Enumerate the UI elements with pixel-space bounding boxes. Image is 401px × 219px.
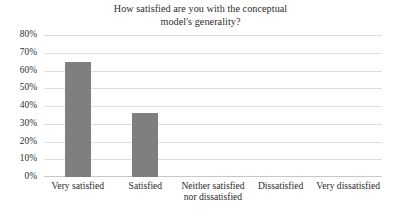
chart-title: How satisfied are you with the conceptua… — [60, 3, 341, 28]
bar-slot — [112, 35, 180, 177]
chart-title-line-1: How satisfied are you with the conceptua… — [114, 3, 288, 14]
y-axis: 80% 70% 60% 50% 40% 30% 20% 10% 0% — [0, 35, 40, 177]
x-axis-tick-label-satisfied: Satisfied — [112, 180, 180, 191]
x-tick-line-1: Neither satisfied — [181, 180, 244, 191]
x-tick-line-1: Satisfied — [129, 180, 163, 191]
y-axis-tick-label: 0% — [25, 172, 38, 181]
x-axis-tick-label-very-dissatisfied: Very dissatisfied — [314, 180, 382, 191]
plot-area — [44, 35, 382, 177]
bar-slot — [179, 35, 247, 177]
x-axis-tick-label-dissatisfied: Dissatisfied — [247, 180, 315, 191]
bar-very-satisfied[interactable] — [65, 62, 91, 177]
x-axis-tick-label-neither: Neither satisfied nor dissatisfied — [179, 180, 247, 203]
x-tick-line-1: Dissatisfied — [258, 180, 303, 191]
chart-title-line-2: model's generality? — [160, 16, 240, 27]
y-axis-tick-label: 30% — [20, 119, 37, 128]
bar-slot — [44, 35, 112, 177]
x-tick-line-1: Very dissatisfied — [316, 180, 380, 191]
y-axis-tick-label: 50% — [20, 84, 37, 93]
y-axis-tick-label: 80% — [20, 30, 37, 39]
y-axis-tick-label: 40% — [20, 101, 37, 110]
y-axis-tick-label: 10% — [20, 155, 37, 164]
bars-layer — [44, 35, 382, 177]
chart-container: How satisfied are you with the conceptua… — [0, 0, 401, 219]
y-axis-tick-label: 20% — [20, 137, 37, 146]
y-axis-tick-label: 70% — [20, 48, 37, 57]
bar-slot — [247, 35, 315, 177]
x-axis: Very satisfied Satisfied Neither satisfi… — [44, 180, 382, 216]
x-tick-line-2: nor dissatisfied — [179, 191, 247, 202]
x-tick-line-1: Very satisfied — [52, 180, 104, 191]
bar-slot — [314, 35, 382, 177]
x-axis-tick-label-very-satisfied: Very satisfied — [44, 180, 112, 191]
y-axis-tick-label: 60% — [20, 66, 37, 75]
bar-satisfied[interactable] — [132, 113, 158, 177]
